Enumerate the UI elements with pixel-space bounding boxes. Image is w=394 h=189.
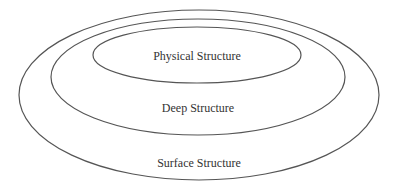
diagram-canvas: Surface StructureDeep StructurePhysical … bbox=[0, 0, 394, 189]
surface-structure-text: Surface Structure bbox=[157, 156, 241, 170]
physical-structure-text: Physical Structure bbox=[153, 49, 241, 63]
nested-ellipses-diagram: Surface StructureDeep StructurePhysical … bbox=[0, 0, 394, 189]
deep-structure-text: Deep Structure bbox=[162, 101, 234, 115]
